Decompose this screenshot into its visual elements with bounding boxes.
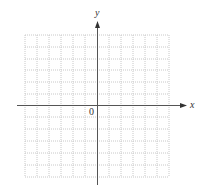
y-axis-arrow-icon	[95, 21, 100, 28]
origin-label: 0	[89, 106, 94, 117]
x-axis	[17, 103, 187, 108]
x-axis-arrow-icon	[180, 103, 187, 108]
x-axis-label: x	[189, 99, 195, 110]
coordinate-plane: x y 0	[0, 0, 205, 190]
y-axis	[95, 21, 100, 185]
y-axis-label: y	[94, 7, 100, 18]
